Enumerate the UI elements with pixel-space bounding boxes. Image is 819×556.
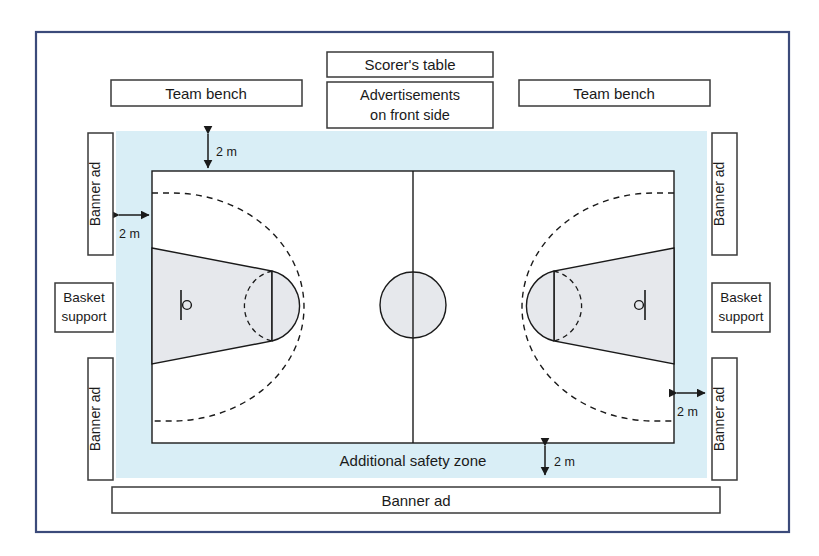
basketball-court-diagram: 2 m 2 m 2 m 2 m Additional safety zone S… [0, 0, 819, 556]
banner-ad-left-bottom-label: Banner ad [87, 387, 103, 452]
team-bench-right-label: Team bench [573, 85, 655, 102]
scorers-table-box[interactable]: Scorer's table [327, 52, 493, 77]
banner-ad-left-top-box[interactable]: Banner ad [87, 133, 113, 255]
basket-support-right-label-line2: support [718, 309, 763, 324]
diagram-canvas: 2 m 2 m 2 m 2 m Additional safety zone S… [0, 0, 819, 556]
banner-ad-right-top-box[interactable]: Banner ad [711, 133, 737, 255]
basket-support-right-label-line1: Basket [720, 290, 762, 305]
dim-label-left: 2 m [119, 227, 140, 241]
basket-support-left-label-line2: support [61, 309, 106, 324]
basket-support-right-box[interactable]: Basket support [712, 283, 770, 332]
banner-ad-bottom-label: Banner ad [381, 492, 450, 509]
banner-ad-right-top-label: Banner ad [711, 162, 727, 227]
team-bench-left-box[interactable]: Team bench [111, 80, 302, 106]
dim-label-right: 2 m [677, 405, 698, 419]
dim-label-top: 2 m [216, 145, 237, 159]
scorers-table-label: Scorer's table [364, 56, 455, 73]
banner-ad-left-top-label: Banner ad [87, 162, 103, 227]
banner-ad-left-bottom-box[interactable]: Banner ad [87, 358, 113, 480]
team-bench-left-label: Team bench [165, 85, 247, 102]
advertisements-front-box[interactable]: Advertisements on front side [327, 82, 493, 128]
banner-ad-bottom-box[interactable]: Banner ad [112, 487, 720, 513]
banner-ad-right-bottom-label: Banner ad [711, 387, 727, 452]
additional-safety-zone-label: Additional safety zone [340, 452, 487, 469]
basket-support-left-label-line1: Basket [63, 290, 105, 305]
team-bench-right-box[interactable]: Team bench [519, 80, 710, 106]
advertisements-front-label-line2: on front side [370, 107, 450, 123]
banner-ad-right-bottom-box[interactable]: Banner ad [711, 358, 737, 480]
advertisements-front-label-line1: Advertisements [360, 87, 460, 103]
dim-label-bottom: 2 m [554, 455, 575, 469]
basket-support-left-box[interactable]: Basket support [55, 283, 113, 332]
